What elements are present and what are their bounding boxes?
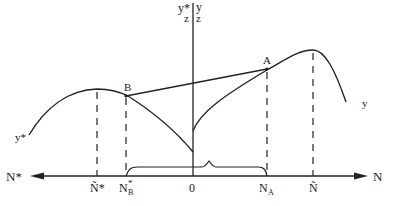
- right-arrow-icon: [354, 173, 368, 180]
- svg-text:B: B: [128, 188, 133, 197]
- label-z-left: z: [184, 12, 189, 24]
- svg-text:N: N: [259, 181, 268, 195]
- y-star-curve: [29, 89, 193, 152]
- label-n-star-axis: N*: [6, 169, 22, 184]
- label-y-star-curve: y*: [15, 131, 26, 143]
- label-z-right: z: [196, 12, 201, 24]
- brace: [126, 161, 267, 176]
- horizontal-axis: [30, 173, 368, 180]
- svg-text:*: *: [128, 178, 133, 188]
- label-n-tilde-star: Ñ*: [90, 181, 105, 195]
- dashed-guides: [97, 53, 313, 176]
- point-b-marker: [124, 94, 127, 97]
- left-arrow-icon: [30, 173, 44, 180]
- diagram-canvas: y* z y z N* N Ñ* N * B 0 N A Ñ B A y* y: [0, 0, 394, 206]
- label-n-a: N A: [259, 181, 274, 197]
- label-n-tilde: Ñ: [309, 181, 318, 195]
- label-n-axis: N: [373, 169, 383, 184]
- label-point-a: A: [263, 54, 271, 66]
- point-a-marker: [265, 67, 268, 70]
- svg-text:A: A: [268, 188, 274, 197]
- svg-text:N: N: [119, 181, 128, 195]
- label-y-curve: y: [362, 97, 368, 109]
- label-point-b: B: [124, 81, 131, 93]
- label-n-b-star: N * B: [119, 178, 133, 197]
- label-origin: 0: [189, 181, 195, 195]
